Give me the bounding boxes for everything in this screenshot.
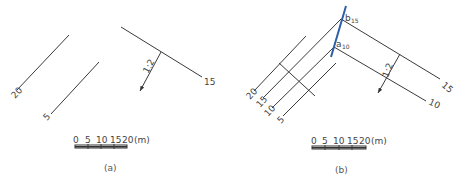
contour-line-10-left [272,47,334,108]
diagram-canvas: 20 5 15 1:2 0 5 10 15 20 (m) (a) 20 15 [0,0,454,185]
contour-label-20: 20 [9,85,24,100]
point-a-subscript: 10 [342,43,350,50]
svg-text:15: 15 [110,135,121,145]
contour-line-15 [121,27,202,77]
slope-label: 1:2 [380,62,394,79]
contour-line-20 [17,35,69,90]
svg-text:15: 15 [347,136,358,146]
svg-text:10: 10 [333,136,345,146]
svg-text:5: 5 [322,136,328,146]
contour-line-15-left [263,19,341,98]
panel-b: 20 15 10 5 15 10 1:2 b 15 a 10 0 5 10 15… [244,6,454,175]
panel-a: 20 5 15 1:2 0 5 10 15 20 (m) (a) [9,27,215,173]
svg-text:(m): (m) [371,136,387,146]
caption-a: (a) [104,163,117,173]
scale-bar: 0 5 10 15 20 (m) [311,136,387,150]
point-a-letter: a [336,39,342,49]
point-b-subscript: 15 [351,17,359,24]
svg-text:0: 0 [311,136,317,146]
section-line [279,63,315,96]
contour-label-15-right: 15 [440,80,454,95]
contour-label-5: 5 [275,114,286,125]
contour-label-15: 15 [204,77,215,87]
svg-text:(m): (m) [134,135,150,145]
svg-text:0: 0 [73,135,79,145]
slope-label: 1:2 [141,57,157,74]
scale-bar: 0 5 10 15 20 (m) [73,135,150,149]
caption-b: (b) [335,165,348,175]
svg-text:20: 20 [122,135,134,145]
contour-line-5 [51,62,99,114]
contour-label-5: 5 [41,111,52,122]
svg-text:20: 20 [359,136,371,146]
contour-label-10-right: 10 [427,97,442,111]
svg-text:5: 5 [85,135,91,145]
svg-text:10: 10 [96,135,108,145]
